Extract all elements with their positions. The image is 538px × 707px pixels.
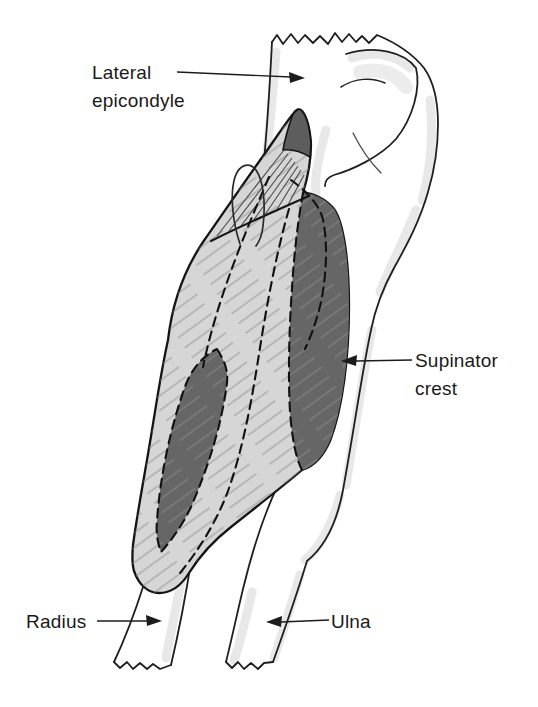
trochlea-ridge [341, 79, 385, 87]
tendon-tip [283, 109, 311, 157]
arrow-supinator-crest [341, 355, 412, 366]
radius-left-edge [114, 584, 144, 662]
radius-break-line [114, 662, 171, 669]
arrow-ulna [266, 616, 329, 627]
label-supinator-crest: Supinator crest [415, 347, 519, 403]
label-ulna: Ulna [331, 608, 391, 636]
anatomy-figure: Lateral epicondyle Supinator crest Radiu… [0, 0, 538, 707]
label-lateral-epicondyle: Lateral epicondyle [92, 59, 208, 115]
label-radius: Radius [26, 608, 106, 636]
